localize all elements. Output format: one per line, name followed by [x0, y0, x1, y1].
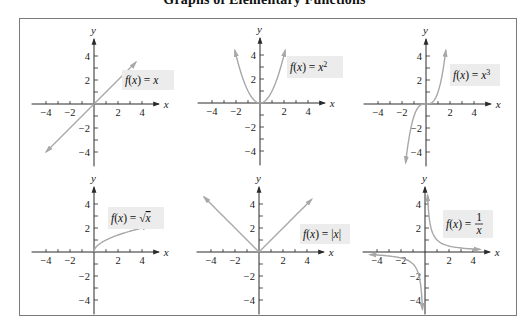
function-label: f(x) = x [122, 70, 174, 90]
x-tick-label: −2 [230, 106, 241, 117]
y-tick-label: −4 [245, 146, 257, 157]
y-tick-label: 4 [250, 199, 256, 210]
y-tick-label: 4 [417, 51, 423, 62]
graph-panel-reciprocal: −4−22442−2−4xyf(x) = 1x [363, 172, 500, 314]
x-axis-label: x [329, 97, 335, 109]
y-tick-label: −2 [79, 271, 90, 282]
svg-text:x: x [475, 224, 482, 236]
svg-text:f(x) = x: f(x) = x [125, 74, 159, 87]
function-label: f(x) = 1x [443, 210, 493, 238]
x-axis-label: x [163, 246, 169, 258]
y-tick-label: 4 [251, 50, 257, 61]
y-tick-label: 2 [417, 75, 422, 86]
function-label: f(x) = x2 [287, 56, 343, 78]
y-tick-label: −2 [244, 271, 255, 282]
x-tick-label: 2 [115, 255, 120, 266]
svg-text:f(x) =: f(x) = [446, 218, 471, 231]
svg-text:f(x) = |x|: f(x) = |x| [303, 228, 341, 241]
graph-panel-cube: −4−22442−2−4xyf(x) = x3 [364, 24, 501, 166]
x-tick-label: 2 [115, 107, 120, 118]
function-label: f(x) = |x| [300, 224, 350, 244]
x-tick-label: −2 [64, 107, 75, 118]
function-curve [204, 197, 312, 252]
graph-panel-square-root: −4−22442−2−4xyf(x) = √x [32, 172, 169, 314]
y-tick-label: −2 [79, 123, 90, 134]
y-tick-label: 2 [85, 223, 90, 234]
x-tick-label: 2 [281, 106, 286, 117]
y-tick-label: −4 [79, 147, 91, 158]
graph-panel-absolute-value: −4−22442−2−4xyf(x) = |x| [197, 172, 350, 314]
x-tick-label: −2 [396, 107, 407, 118]
y-tick-label: 2 [85, 75, 90, 86]
x-tick-label: −4 [40, 107, 52, 118]
x-tick-label: −2 [229, 255, 240, 266]
x-tick-label: −4 [40, 255, 52, 266]
y-axis-label: y [422, 24, 428, 36]
y-tick-label: 4 [85, 199, 91, 210]
x-tick-label: 4 [471, 107, 477, 118]
y-axis-label: y [90, 172, 96, 184]
x-tick-label: 2 [280, 255, 285, 266]
x-tick-label: −2 [64, 255, 75, 266]
x-tick-label: −4 [371, 255, 383, 266]
function-graphs-grid: −4−22442−2−4xyf(x) = x−4−22442−2−4xyf(x)… [0, 0, 529, 334]
y-axis-label: y [256, 23, 262, 35]
x-tick-label: 4 [139, 255, 145, 266]
x-axis-label: x [495, 98, 501, 110]
y-tick-label: 4 [85, 51, 91, 62]
svg-text:f(x) = √x: f(x) = √x [111, 212, 152, 225]
x-tick-label: −4 [205, 255, 217, 266]
svg-text:f(x) = x3: f(x) = x3 [453, 68, 490, 83]
graph-panel-identity: −4−22442−2−4xyf(x) = x [32, 24, 174, 166]
x-tick-label: 4 [470, 255, 476, 266]
svg-text:f(x) = x2: f(x) = x2 [290, 60, 327, 75]
y-tick-label: −4 [79, 295, 91, 306]
x-axis-label: x [494, 246, 500, 258]
y-tick-label: −4 [244, 295, 256, 306]
function-label: f(x) = √x [108, 207, 164, 229]
y-tick-label: 2 [251, 74, 256, 85]
x-tick-label: 2 [447, 107, 452, 118]
y-tick-label: −4 [410, 295, 422, 306]
x-tick-label: −4 [206, 106, 218, 117]
y-tick-label: 4 [416, 199, 422, 210]
y-axis-label: y [255, 172, 261, 184]
function-curve [94, 226, 149, 252]
svg-text:1: 1 [476, 211, 482, 223]
y-tick-label: −4 [411, 147, 423, 158]
x-tick-label: 4 [304, 255, 310, 266]
x-axis-label: x [328, 246, 334, 258]
x-tick-label: 4 [139, 107, 145, 118]
y-axis-label: y [90, 24, 96, 36]
function-label: f(x) = x3 [450, 64, 500, 86]
x-tick-label: −4 [372, 107, 384, 118]
x-tick-label: 2 [446, 255, 451, 266]
y-axis-label: y [421, 172, 427, 184]
y-tick-label: 2 [250, 223, 255, 234]
y-tick-label: 2 [416, 223, 421, 234]
graph-panel-square: −4−22442−2−4xyf(x) = x2 [198, 23, 343, 165]
x-tick-label: 4 [305, 106, 311, 117]
y-tick-label: −2 [411, 123, 422, 134]
y-tick-label: −2 [245, 122, 256, 133]
x-axis-label: x [163, 98, 169, 110]
